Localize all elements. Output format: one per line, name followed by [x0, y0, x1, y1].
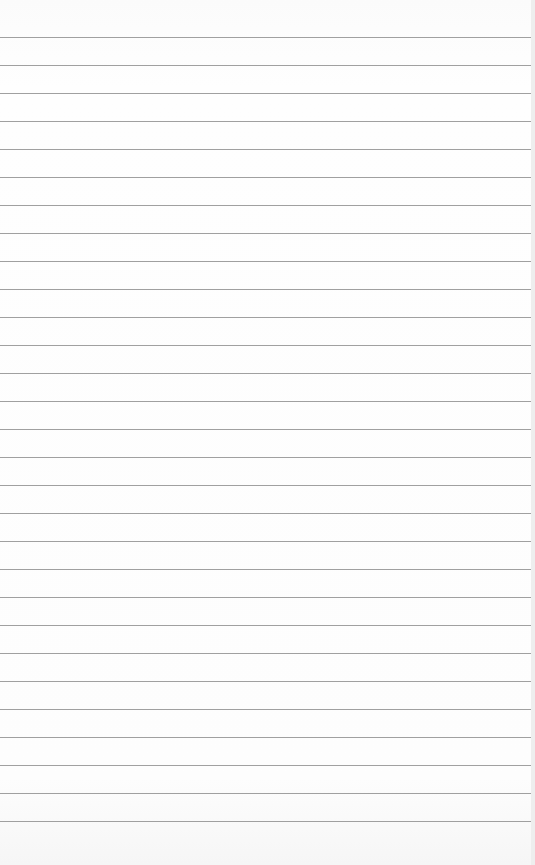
ruled-line — [0, 681, 535, 682]
ruled-line — [0, 93, 535, 94]
ruled-line — [0, 149, 535, 150]
ruled-line — [0, 541, 535, 542]
ruled-line — [0, 569, 535, 570]
ruled-line — [0, 485, 535, 486]
ruled-line — [0, 177, 535, 178]
ruled-line — [0, 821, 535, 822]
lined-paper-sheet — [0, 0, 535, 865]
ruled-line — [0, 513, 535, 514]
ruled-line — [0, 653, 535, 654]
ruled-line — [0, 345, 535, 346]
ruled-line — [0, 373, 535, 374]
ruled-line — [0, 457, 535, 458]
ruled-line — [0, 597, 535, 598]
ruled-line — [0, 429, 535, 430]
ruled-line — [0, 765, 535, 766]
ruled-line — [0, 737, 535, 738]
ruled-line — [0, 401, 535, 402]
ruled-line — [0, 205, 535, 206]
ruled-line — [0, 625, 535, 626]
paper-edge — [531, 0, 535, 865]
ruled-line — [0, 709, 535, 710]
ruled-line — [0, 289, 535, 290]
ruled-line — [0, 121, 535, 122]
ruled-line — [0, 793, 535, 794]
ruled-line — [0, 317, 535, 318]
ruled-line — [0, 65, 535, 66]
ruled-line — [0, 37, 535, 38]
ruled-line — [0, 261, 535, 262]
ruled-line — [0, 233, 535, 234]
